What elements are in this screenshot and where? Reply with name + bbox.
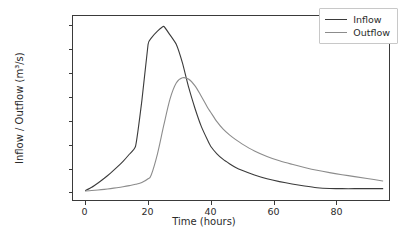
hydrograph-figure: 02505007501000125015001750 020406080 Inf… xyxy=(0,0,408,240)
x-tick-mark xyxy=(85,201,86,205)
x-axis-label: Time (hours) xyxy=(0,216,408,227)
y-axis-label: Inflow / Outflow (m³/s) xyxy=(14,52,25,164)
x-tick-mark xyxy=(336,201,337,205)
legend-label-inflow: Inflow xyxy=(353,14,381,25)
legend-item-inflow: Inflow xyxy=(325,13,390,26)
x-tick-mark xyxy=(211,201,212,205)
chart-legend: Inflow Outflow xyxy=(319,8,398,44)
legend-swatch-inflow xyxy=(325,19,347,20)
x-tick-mark xyxy=(148,201,149,205)
x-tick-mark xyxy=(274,201,275,205)
legend-item-outflow: Outflow xyxy=(325,26,390,39)
legend-swatch-outflow xyxy=(325,32,347,33)
legend-label-outflow: Outflow xyxy=(353,27,390,38)
